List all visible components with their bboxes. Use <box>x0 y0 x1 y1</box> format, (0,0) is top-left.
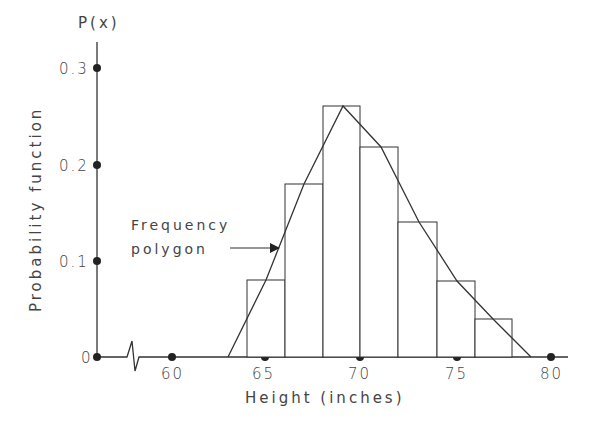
x-tick-dot <box>547 353 555 361</box>
histogram-bar <box>475 319 512 357</box>
y-tick-dot <box>93 353 101 361</box>
x-tick-label: 80 <box>540 365 563 383</box>
y-ticks: 0.3 0.2 0.1 0 <box>59 60 101 367</box>
annotation-label-line2: polygon <box>131 241 208 257</box>
annotation-arrow-icon <box>230 243 280 253</box>
y-tick-dot <box>93 257 101 265</box>
y-tick-label: 0 <box>81 349 93 367</box>
x-tick-label: 65 <box>252 365 275 383</box>
x-axis-title: Height (inches) <box>245 389 405 407</box>
y-tick-dot <box>93 64 101 72</box>
y-tick-label: 0.1 <box>59 253 89 271</box>
histogram-chart: P(x) Probability function 0.3 0.2 0.1 0 … <box>0 0 605 426</box>
histogram-bars <box>247 106 512 357</box>
x-tick-dot <box>168 353 176 361</box>
y-tick-label: 0.2 <box>59 157 89 175</box>
histogram-bar <box>437 281 475 357</box>
y-axis-symbol: P(x) <box>78 14 120 32</box>
y-tick-label: 0.3 <box>59 60 89 78</box>
histogram-bar <box>285 184 323 357</box>
x-tick-label: 70 <box>348 365 371 383</box>
histogram-bar <box>247 280 285 357</box>
y-axis-title: Probability function <box>27 107 45 312</box>
histogram-bar <box>360 147 398 357</box>
annotation-label-line1: Frequency <box>131 217 230 233</box>
y-tick-dot <box>93 161 101 169</box>
histogram-bar <box>398 222 437 357</box>
x-tick-label: 75 <box>445 365 468 383</box>
histogram-bar <box>323 106 360 357</box>
x-tick-label: 60 <box>161 365 184 383</box>
